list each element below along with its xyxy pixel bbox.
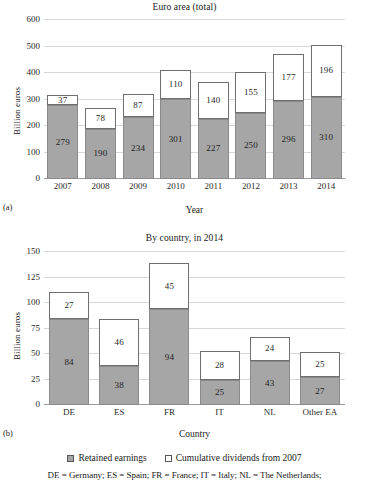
bar-segment-retained-earnings[interactable]: 250 bbox=[235, 113, 266, 179]
bar-segment-cumulative-dividends[interactable]: 196 bbox=[311, 45, 342, 97]
bar-value-label: 196 bbox=[319, 66, 333, 75]
bar-group[interactable]: 234872009 bbox=[123, 20, 154, 179]
x-axis-label-a: Year bbox=[44, 205, 345, 215]
bar-value-label: 37 bbox=[58, 96, 67, 105]
bar-segment-cumulative-dividends[interactable]: 27 bbox=[49, 292, 89, 320]
bar-segment-cumulative-dividends[interactable]: 37 bbox=[47, 95, 78, 105]
legend-item[interactable]: Retained earnings bbox=[67, 453, 146, 463]
bar-segment-cumulative-dividends[interactable]: 140 bbox=[198, 82, 229, 119]
bar-segment-retained-earnings[interactable]: 94 bbox=[149, 309, 189, 405]
x-tick-label-2014: 2014 bbox=[317, 182, 335, 191]
bar-value-label: 94 bbox=[165, 353, 174, 362]
legend-swatch-dividends bbox=[165, 455, 172, 462]
bar-segment-cumulative-dividends[interactable]: 78 bbox=[85, 108, 116, 129]
x-tick-label-es: ES bbox=[114, 408, 125, 417]
bar-segment-retained-earnings[interactable]: 43 bbox=[250, 361, 290, 405]
y-axis-label-a: Billion euros bbox=[12, 87, 22, 135]
y-tick-label-100: 100 bbox=[27, 147, 41, 156]
y-tick-label-125: 125 bbox=[27, 272, 41, 281]
x-tick-label-2013: 2013 bbox=[280, 182, 298, 191]
bar-group[interactable]: 279372007 bbox=[47, 20, 78, 179]
bar-group[interactable]: 8427DE bbox=[49, 252, 89, 405]
bar-segment-cumulative-dividends[interactable]: 25 bbox=[300, 352, 340, 378]
bar-group[interactable]: 2528IT bbox=[200, 252, 240, 405]
bar-segment-retained-earnings[interactable]: 27 bbox=[300, 377, 340, 405]
bar-group[interactable]: 190782008 bbox=[85, 20, 116, 179]
bar-group[interactable]: 2271402011 bbox=[198, 20, 229, 179]
x-tick-label-2008: 2008 bbox=[91, 182, 109, 191]
bar-segment-retained-earnings[interactable]: 190 bbox=[85, 129, 116, 179]
bar-segment-cumulative-dividends[interactable]: 87 bbox=[123, 94, 154, 117]
bar-value-label: 296 bbox=[282, 135, 296, 144]
legend-label: Cumulative dividends from 2007 bbox=[176, 453, 302, 463]
bar-segment-retained-earnings[interactable]: 301 bbox=[160, 99, 191, 179]
x-tick-label-it: IT bbox=[215, 408, 224, 417]
x-tick-label-nl: NL bbox=[264, 408, 276, 417]
x-tick-label-2011: 2011 bbox=[204, 182, 222, 191]
bar-segment-retained-earnings[interactable]: 38 bbox=[99, 366, 139, 405]
bar-value-label: 87 bbox=[133, 101, 142, 110]
plot-area-a: 0100200300400500600279372007190782008234… bbox=[44, 20, 345, 179]
y-tick-label-25: 25 bbox=[31, 374, 40, 383]
bar-segment-cumulative-dividends[interactable]: 46 bbox=[99, 319, 139, 366]
y-tick-label-0: 0 bbox=[36, 400, 41, 409]
bar-value-label: 28 bbox=[215, 361, 224, 370]
y-tick-label-300: 300 bbox=[27, 94, 41, 103]
y-tick-label-100: 100 bbox=[27, 298, 41, 307]
bar-value-label: 24 bbox=[265, 344, 274, 353]
bar-value-label: 279 bbox=[56, 138, 70, 147]
bar-value-label: 25 bbox=[215, 388, 224, 397]
bar-segment-retained-earnings[interactable]: 296 bbox=[273, 101, 304, 179]
y-tick-label-200: 200 bbox=[27, 121, 41, 130]
bar-segment-cumulative-dividends[interactable]: 24 bbox=[250, 337, 290, 361]
bar-group[interactable]: 3101962014 bbox=[311, 20, 342, 179]
panel-tag-a: (a) bbox=[3, 202, 12, 212]
y-axis-label-b: Billion euros bbox=[12, 312, 22, 360]
bar-value-label: 27 bbox=[64, 301, 73, 310]
bar-group[interactable]: 4324NL bbox=[250, 252, 290, 405]
x-tick-label-2010: 2010 bbox=[167, 182, 185, 191]
bar-value-label: 301 bbox=[169, 135, 183, 144]
bar-segment-retained-earnings[interactable]: 310 bbox=[311, 97, 342, 179]
panel-tag-b: (b) bbox=[3, 428, 13, 438]
bar-value-label: 227 bbox=[206, 144, 220, 153]
x-tick-label-2007: 2007 bbox=[54, 182, 72, 191]
y-tick-label-600: 600 bbox=[27, 15, 41, 24]
bar-value-label: 25 bbox=[315, 360, 324, 369]
bar-group[interactable]: 2501552012 bbox=[235, 20, 266, 179]
y-tick-label-400: 400 bbox=[27, 68, 41, 77]
bar-segment-cumulative-dividends[interactable]: 28 bbox=[200, 351, 240, 380]
y-tick-label-500: 500 bbox=[27, 41, 41, 50]
bar-segment-cumulative-dividends[interactable]: 155 bbox=[235, 72, 266, 113]
plot-area-b: 02550751001251508427DE3846ES9445FR2528IT… bbox=[44, 252, 345, 405]
bar-value-label: 234 bbox=[131, 144, 145, 153]
stacked-bar-figure: Euro area (total) Billion euros 01002003… bbox=[0, 0, 369, 486]
bar-segment-cumulative-dividends[interactable]: 110 bbox=[160, 70, 191, 99]
x-tick-label-fr: FR bbox=[164, 408, 175, 417]
bar-segment-cumulative-dividends[interactable]: 177 bbox=[273, 54, 304, 101]
bar-value-label: 38 bbox=[115, 381, 124, 390]
bar-segment-retained-earnings[interactable]: 84 bbox=[49, 319, 89, 405]
bar-group[interactable]: 2725Other EA bbox=[300, 252, 340, 405]
bar-group[interactable]: 2961772013 bbox=[273, 20, 304, 179]
y-tick-label-150: 150 bbox=[27, 247, 41, 256]
bar-value-label: 190 bbox=[93, 149, 107, 158]
bar-group[interactable]: 3011102010 bbox=[160, 20, 191, 179]
y-tick-label-50: 50 bbox=[31, 349, 40, 358]
bar-value-label: 110 bbox=[169, 80, 183, 89]
legend-item[interactable]: Cumulative dividends from 2007 bbox=[165, 453, 302, 463]
bar-segment-retained-earnings[interactable]: 25 bbox=[200, 380, 240, 406]
bar-group[interactable]: 3846ES bbox=[99, 252, 139, 405]
bar-value-label: 250 bbox=[244, 141, 258, 150]
bar-value-label: 140 bbox=[206, 96, 220, 105]
footnote-abbreviations: DE = Germany; ES = Spain; FR = France; I… bbox=[0, 470, 369, 480]
bar-segment-retained-earnings[interactable]: 279 bbox=[47, 105, 78, 179]
bar-segment-retained-earnings[interactable]: 227 bbox=[198, 119, 229, 179]
bar-value-label: 27 bbox=[315, 387, 324, 396]
chart-title-a: Euro area (total) bbox=[0, 2, 369, 12]
bar-group[interactable]: 9445FR bbox=[149, 252, 189, 405]
bar-value-label: 43 bbox=[265, 379, 274, 388]
bar-segment-retained-earnings[interactable]: 234 bbox=[123, 117, 154, 179]
bar-segment-cumulative-dividends[interactable]: 45 bbox=[149, 263, 189, 309]
legend-label: Retained earnings bbox=[78, 453, 146, 463]
